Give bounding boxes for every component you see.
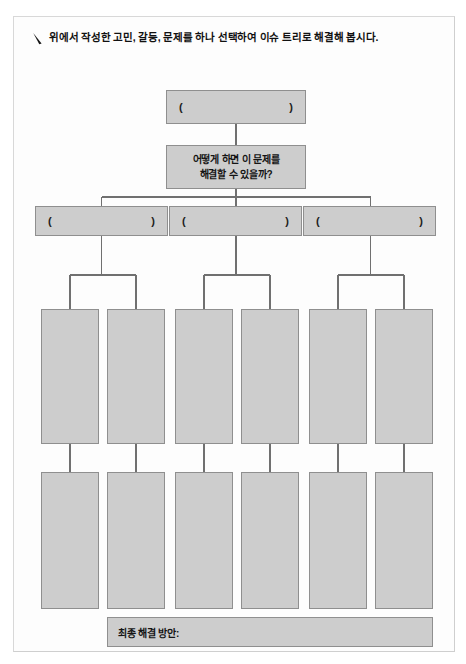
leaf-row1-cell-2[interactable] bbox=[107, 309, 165, 444]
root-node[interactable]: ( ) bbox=[166, 90, 306, 124]
branch-1-open-paren: ( bbox=[48, 216, 52, 227]
leaf-row2-cell-3[interactable] bbox=[175, 472, 233, 609]
leaf-row1-cell-3[interactable] bbox=[175, 309, 233, 444]
question-node-text: 어떻게 하면 이 문제를 해결할 수 있을까? bbox=[193, 152, 280, 182]
branch-node-3[interactable]: ( ) bbox=[303, 206, 436, 236]
issue-tree-diagram: ( ) 어떻게 하면 이 문제를 해결할 수 있을까? ( ) ( ) ( ) bbox=[14, 17, 456, 653]
leaf-row2-cell-4[interactable] bbox=[241, 472, 299, 609]
branch-2-open-paren: ( bbox=[182, 216, 186, 227]
branch-3-close-paren: ) bbox=[419, 216, 423, 227]
leaf-row1-cell-5[interactable] bbox=[309, 309, 367, 444]
final-solution-label: 최종 해결 방안: bbox=[108, 625, 179, 640]
leaf-row1-cell-6[interactable] bbox=[375, 309, 433, 444]
branch-3-open-paren: ( bbox=[316, 216, 320, 227]
question-node[interactable]: 어떻게 하면 이 문제를 해결할 수 있을까? bbox=[166, 145, 306, 189]
leaf-row1-cell-4[interactable] bbox=[241, 309, 299, 444]
worksheet-page: 위에서 작성한 고민, 갈등, 문제를 하나 선택하여 이슈 트리로 해결해 봅… bbox=[13, 16, 455, 652]
branch-node-1[interactable]: ( ) bbox=[35, 206, 168, 236]
branch-2-close-paren: ) bbox=[285, 216, 289, 227]
root-open-paren: ( bbox=[179, 102, 183, 113]
leaf-row2-cell-1[interactable] bbox=[41, 472, 99, 609]
branch-1-close-paren: ) bbox=[151, 216, 155, 227]
final-solution-box[interactable]: 최종 해결 방안: bbox=[107, 617, 433, 647]
leaf-row2-cell-6[interactable] bbox=[375, 472, 433, 609]
leaf-row2-cell-2[interactable] bbox=[107, 472, 165, 609]
root-close-paren: ) bbox=[289, 102, 293, 113]
leaf-row2-cell-5[interactable] bbox=[309, 472, 367, 609]
branch-node-2[interactable]: ( ) bbox=[169, 206, 302, 236]
leaf-row1-cell-1[interactable] bbox=[41, 309, 99, 444]
